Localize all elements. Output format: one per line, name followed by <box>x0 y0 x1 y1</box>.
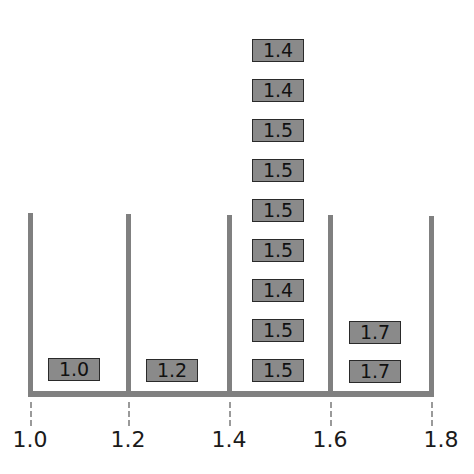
bin-divider-1-2 <box>126 214 131 396</box>
bin-divider-1-0 <box>28 213 33 396</box>
data-box: 1.5 <box>252 319 304 342</box>
data-box: 1.4 <box>252 39 304 62</box>
tick-1-6 <box>330 402 332 426</box>
tick-1-2 <box>128 402 130 426</box>
data-box: 1.0 <box>48 358 100 381</box>
data-box: 1.4 <box>252 279 304 302</box>
x-tick-label: 1.4 <box>199 428 259 452</box>
data-box: 1.5 <box>252 199 304 222</box>
tick-1-0 <box>30 402 32 426</box>
data-box: 1.2 <box>146 359 198 382</box>
x-tick-label: 1.6 <box>300 428 360 452</box>
bin-divider-1-6 <box>328 215 333 396</box>
data-box: 1.7 <box>349 321 401 344</box>
baseline <box>28 391 434 397</box>
data-box: 1.7 <box>349 360 401 383</box>
x-tick-label: 1.8 <box>411 428 471 452</box>
data-box: 1.5 <box>252 119 304 142</box>
data-box: 1.5 <box>252 159 304 182</box>
tick-1-8 <box>431 402 433 426</box>
data-box: 1.4 <box>252 79 304 102</box>
histogram-chart: 1.0 1.2 1.4 1.6 1.8 1.0 1.2 1.5 1.5 1.4 … <box>0 0 474 474</box>
tick-1-4 <box>229 402 231 426</box>
x-tick-label: 1.0 <box>0 428 60 452</box>
x-tick-label: 1.2 <box>98 428 158 452</box>
data-box: 1.5 <box>252 359 304 382</box>
data-box: 1.5 <box>252 239 304 262</box>
bin-divider-1-8 <box>429 216 434 396</box>
bin-divider-1-4 <box>227 215 232 396</box>
